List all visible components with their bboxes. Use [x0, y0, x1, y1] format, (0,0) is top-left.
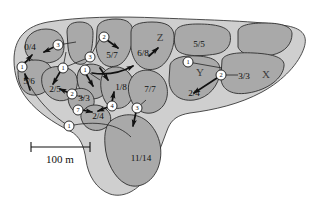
- patch-label-5-6: 5/6: [23, 76, 35, 86]
- event-node-a: 3: [53, 40, 63, 50]
- event-node-e: 3: [85, 52, 95, 62]
- patch-label-7-7: 7/7: [144, 84, 156, 94]
- event-node-c-value: 1: [61, 64, 64, 71]
- event-node-k-value: 1: [186, 58, 189, 65]
- event-node-m: 1: [64, 121, 74, 131]
- event-node-g-value: 2: [70, 90, 73, 97]
- event-node-m-value: 1: [67, 122, 70, 129]
- patch-label-6-8: 6/8: [137, 48, 149, 58]
- event-node-b-value: 1: [20, 63, 23, 70]
- zone-label-x: X: [262, 68, 270, 80]
- event-node-a-value: 3: [56, 41, 59, 48]
- scale-bar: 100 m: [31, 142, 90, 165]
- patch-3-3-right: [221, 53, 284, 94]
- figure-canvas: 0/4 5/6 2/5 5/7 6/8 5/5 3/3 2/4 1/8 7/7 …: [0, 0, 316, 209]
- patch-label-5-5: 5/5: [193, 39, 205, 49]
- event-node-f-value: 2: [102, 33, 105, 40]
- patch-label-2-5: 2/5: [49, 84, 61, 94]
- event-node-l-value: 2: [219, 71, 222, 78]
- patch-label-3-3-left: 3/3: [78, 93, 90, 103]
- event-node-d: 1: [80, 65, 90, 75]
- patch-label-3-3-right: 3/3: [238, 71, 250, 81]
- event-node-f: 2: [99, 32, 109, 42]
- scale-bar-label: 100 m: [46, 153, 74, 165]
- event-node-k: 1: [183, 57, 193, 67]
- event-node-j-value: 3: [135, 104, 138, 111]
- patch-label-2-4-right: 2/4: [188, 88, 200, 98]
- territory-map-svg: 0/4 5/6 2/5 5/7 6/8 5/5 3/3 2/4 1/8 7/7 …: [0, 0, 316, 209]
- event-node-j: 3: [132, 103, 142, 113]
- event-node-e-value: 3: [88, 53, 91, 60]
- event-node-d-value: 1: [83, 66, 86, 73]
- patch-label-11-14: 11/14: [131, 153, 152, 163]
- patch-label-1-8: 1/8: [115, 82, 127, 92]
- zone-label-z: Z: [157, 31, 164, 43]
- event-node-b: 1: [17, 62, 27, 72]
- patch-label-5-7: 5/7: [106, 50, 118, 60]
- patch-label-0-4: 0/4: [24, 42, 36, 52]
- event-node-g: 2: [67, 89, 77, 99]
- zone-label-y: Y: [196, 66, 204, 78]
- event-node-c: 1: [58, 63, 68, 73]
- patch-label-2-4-left: 2/4: [92, 111, 104, 121]
- event-node-i: 4: [107, 101, 117, 111]
- event-node-l: 2: [216, 70, 226, 80]
- event-node-h: 7: [73, 105, 83, 115]
